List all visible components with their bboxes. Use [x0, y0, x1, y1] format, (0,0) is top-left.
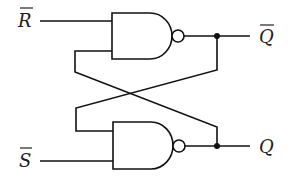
label-q: Q [259, 136, 274, 157]
junction-dot-q [214, 143, 220, 149]
inverter-bubble-top [172, 30, 184, 42]
svg-text:Q: Q [259, 26, 274, 47]
label-s-bar: S [19, 148, 32, 171]
nand-gate-top [112, 13, 184, 59]
svg-text:R: R [17, 10, 32, 31]
label-r-bar: R [17, 8, 33, 31]
sr-latch-diagram: R S Q Q [0, 0, 295, 186]
svg-text:Q: Q [259, 136, 274, 157]
label-q-bar: Q [259, 25, 274, 47]
svg-text:S: S [19, 150, 31, 171]
junction-dot-q-bar [214, 33, 220, 39]
nand-gate-bottom [113, 122, 185, 169]
inverter-bubble-bottom [173, 140, 185, 152]
